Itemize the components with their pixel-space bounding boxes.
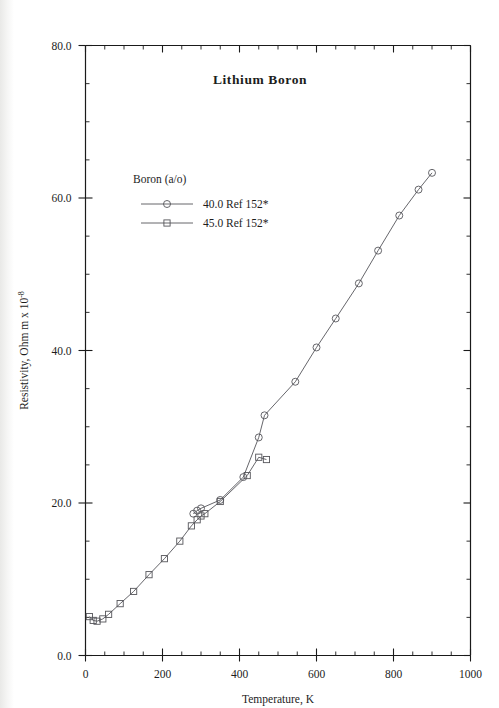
x-tick-label: 600 [308,668,326,680]
legend-entry-label: 40.0 Ref 152* [203,198,269,210]
plot-frame [86,46,471,656]
x-tick-label: 400 [231,668,249,680]
y-tick-label: 80.0 [51,40,71,52]
y-tick-label: 0.0 [57,650,72,662]
chart-title: Lithium Boron [213,72,307,87]
legend-title: Boron (a/o) [133,173,187,186]
series-line [89,457,266,621]
x-tick-label: 0 [83,668,89,680]
x-axis-title: Temperature, K [242,693,315,706]
x-tick-label: 800 [385,668,403,680]
y-axis-title-exponent: -8 [17,291,26,298]
y-tick-label: 40.0 [51,345,71,357]
data-marker-circle [429,169,436,176]
x-tick-label: 1000 [459,668,482,680]
x-tick-label: 200 [154,668,172,680]
y-tick-label: 20.0 [51,497,71,509]
series-2 [86,454,269,624]
resistivity-vs-temperature-chart: 020040060080010000.020.040.060.080.0Temp… [0,0,499,708]
y-axis-title: Resistivity, Ohm m x 10-8 [17,291,31,410]
y-axis-title-text: Resistivity, Ohm m x 10 [18,298,31,410]
chart-page: 020040060080010000.020.040.060.080.0Temp… [0,0,499,708]
legend-entry-label: 45.0 Ref 152* [203,217,269,229]
y-tick-label: 60.0 [51,192,71,204]
legend: Boron (a/o)40.0 Ref 152*45.0 Ref 152* [133,173,269,229]
